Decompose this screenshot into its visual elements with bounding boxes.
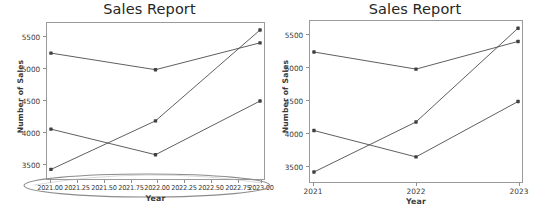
- y-tick-label-left-3500: 3500: [12, 161, 40, 170]
- x-tick-mark-left-2: [104, 180, 105, 183]
- series-1-line-right: [314, 41, 518, 69]
- x-tick-mark-left-0: [50, 180, 51, 183]
- y-tick-label-right-4500: 4500: [275, 97, 303, 106]
- x-tick-mark-left-1: [77, 180, 78, 183]
- plot-area-left: [46, 22, 265, 180]
- series-2-line-right: [314, 102, 518, 157]
- x-tick-label-right-2023: 2023: [499, 187, 539, 196]
- y-tick-label-right-3500: 3500: [275, 163, 303, 172]
- chart-title-left: Sales Report: [0, 1, 271, 17]
- x-tick-mark-left-8: [261, 180, 262, 183]
- chart-panel-left: Sales Report Number of Sales 5500 5000 4…: [0, 0, 271, 213]
- x-tick-mark-right-2021: [313, 183, 314, 186]
- y-tick-label-left-4000: 4000: [12, 129, 40, 138]
- x-tick-mark-left-4: [157, 180, 158, 183]
- x-tick-mark-right-2022: [416, 183, 417, 186]
- x-tick-mark-left-7: [238, 180, 239, 183]
- x-tick-mark-left-5: [184, 180, 185, 183]
- plot-lines-left: [47, 23, 264, 179]
- y-tick-label-left-5000: 5000: [12, 65, 40, 74]
- y-tick-label-left-4500: 4500: [12, 97, 40, 106]
- series-2-line-left: [51, 101, 260, 155]
- y-tick-label-left-5500: 5500: [12, 33, 40, 42]
- chart-title-right: Sales Report: [271, 1, 541, 17]
- series-markers-left: [49, 28, 261, 171]
- x-tick-mark-left-3: [131, 180, 132, 183]
- screenshot-root: Sales Report Number of Sales 5500 5000 4…: [0, 0, 541, 213]
- x-tick-mark-right-2023: [519, 183, 520, 186]
- y-tick-label-right-5000: 5000: [275, 64, 303, 73]
- series-1-line-left: [51, 43, 260, 70]
- series-markers-right: [312, 27, 519, 174]
- plot-lines-right: [310, 21, 522, 182]
- y-tick-label-right-4000: 4000: [275, 130, 303, 139]
- x-tick-mark-left-6: [211, 180, 212, 183]
- plot-area-right: [309, 20, 523, 183]
- chart-panel-right: Sales Report Number of Sales 5500 5000 4…: [271, 0, 541, 213]
- x-tick-label-right-2022: 2022: [396, 187, 436, 196]
- x-tick-label-right-2021: 2021: [293, 187, 333, 196]
- x-axis-label-right: Year: [309, 197, 523, 206]
- y-tick-label-right-5500: 5500: [275, 31, 303, 40]
- x-axis-label-left: Year: [46, 194, 265, 203]
